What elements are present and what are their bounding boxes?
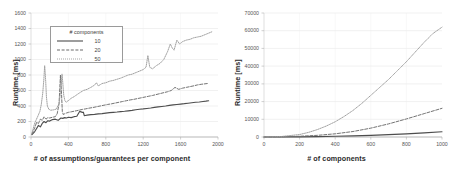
x-tick-label: 0 xyxy=(254,141,274,147)
figure: 1600 1400 1200 1000 800 600 400 200 0 0 … xyxy=(0,0,449,169)
legend-item[interactable]: 50 xyxy=(57,55,116,63)
y-tick-label: 0 xyxy=(231,134,259,140)
legend-line-dotted-icon xyxy=(57,57,83,61)
x-tick-label: 1000 xyxy=(432,141,449,147)
y-axis-title: Runtime [ms] xyxy=(11,59,20,106)
legend-left[interactable]: # components 10 20 50 xyxy=(50,26,123,63)
x-tick-label: 400 xyxy=(58,141,78,147)
y-tick-label: 1400 xyxy=(6,25,26,31)
y-tick-label: 200 xyxy=(6,118,26,124)
legend-line-dashed-icon xyxy=(57,48,83,52)
y-tick-label: 60000 xyxy=(231,27,259,33)
y-tick-label: 1200 xyxy=(6,41,26,47)
y-axis-title: Runtime [ms] xyxy=(233,59,242,106)
x-tick-label: 800 xyxy=(96,141,116,147)
x-tick-label: 0 xyxy=(21,141,41,147)
x-tick-label: 400 xyxy=(325,141,345,147)
x-axis-title: # of components xyxy=(224,154,449,163)
x-tick-marks xyxy=(31,137,218,140)
plot-background xyxy=(264,13,442,137)
x-axis-title: # of assumptions/guarantees per componen… xyxy=(0,154,224,163)
x-tick-label: 800 xyxy=(396,141,416,147)
y-tick-label: 1600 xyxy=(6,10,26,16)
y-tick-label: 50000 xyxy=(231,45,259,51)
legend-item-label: 10 xyxy=(83,38,116,44)
legend-item[interactable]: 10 xyxy=(57,37,116,45)
x-tick-label: 1600 xyxy=(171,141,191,147)
y-tick-marks xyxy=(29,13,32,137)
legend-item[interactable]: 20 xyxy=(57,46,116,54)
x-tick-label: 1200 xyxy=(133,141,153,147)
y-tick-label: 10000 xyxy=(231,116,259,122)
x-tick-label: 600 xyxy=(361,141,381,147)
chart-panel-left: 1600 1400 1200 1000 800 600 400 200 0 0 … xyxy=(0,0,224,169)
legend-item-label: 20 xyxy=(83,47,116,53)
x-tick-label: 200 xyxy=(290,141,310,147)
chart-panel-right: 70000 60000 50000 40000 30000 20000 1000… xyxy=(224,0,449,169)
legend-title: # components xyxy=(51,29,122,35)
legend-item-label: 50 xyxy=(83,56,116,62)
legend-line-solid-icon xyxy=(57,39,83,43)
y-tick-label: 70000 xyxy=(231,10,259,16)
y-tick-label: 0 xyxy=(6,134,26,140)
y-tick-marks xyxy=(262,13,265,137)
